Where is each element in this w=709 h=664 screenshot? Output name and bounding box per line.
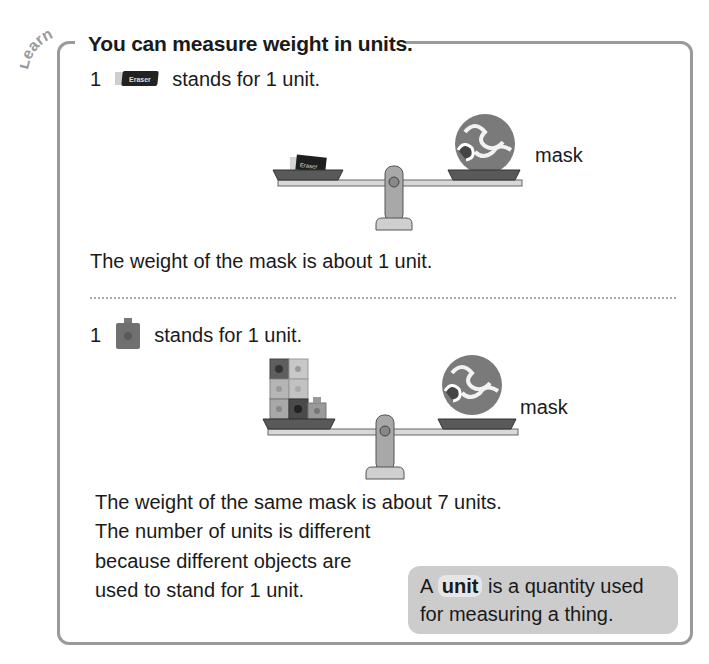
definition-callout: A unit is a quantity used for measuring … bbox=[408, 566, 678, 634]
section-divider bbox=[90, 297, 676, 299]
explanation-line-2: because different objects are bbox=[95, 550, 351, 573]
mask-icon bbox=[442, 355, 502, 415]
result-text-1: The weight of the mask is about 1 unit. bbox=[90, 250, 432, 273]
keyword-unit: unit bbox=[438, 575, 483, 597]
mask-label-2: mask bbox=[520, 396, 568, 419]
cube-icon bbox=[115, 318, 141, 355]
explanation-line-1: The number of units is different bbox=[95, 520, 370, 543]
svg-text:Eraser: Eraser bbox=[129, 76, 151, 83]
cubes-stack-icon bbox=[270, 359, 326, 419]
svg-text:Learn: Learn bbox=[20, 25, 55, 71]
eraser-icon: Eraser bbox=[115, 69, 159, 92]
unit-statement-eraser: 1 Eraser stands for 1 unit. bbox=[90, 68, 320, 92]
mask-icon bbox=[455, 114, 515, 174]
balance-scale-1: Eraser bbox=[270, 112, 530, 236]
lesson-title: You can measure weight in units. bbox=[88, 32, 413, 56]
explanation-line-3: used to stand for 1 unit. bbox=[95, 579, 304, 602]
unit-statement-cube: 1 stands for 1 unit. bbox=[90, 318, 302, 355]
result-text-2: The weight of the same mask is about 7 u… bbox=[95, 491, 502, 514]
mask-label-1: mask bbox=[535, 144, 583, 167]
balance-scale-2 bbox=[260, 355, 530, 484]
